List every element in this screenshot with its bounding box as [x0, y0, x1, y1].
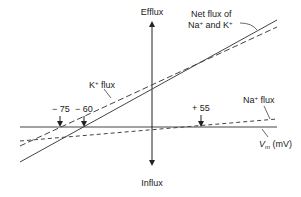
efflux-label: Efflux: [141, 7, 164, 17]
k-flux-leader: [104, 89, 111, 98]
na-flux-line: [20, 119, 277, 141]
k-flux-line: [20, 20, 277, 162]
na-flux-label: Na+ flux: [243, 95, 275, 105]
flux-diagram: Efflux Influx Net flux of Na+ and K+ K+ …: [0, 0, 301, 197]
net-flux-line: [20, 27, 277, 146]
marker-label-minus60: − 60: [75, 104, 93, 114]
marker-label-minus75: − 75: [52, 104, 70, 114]
influx-label: Influx: [141, 178, 163, 188]
k-flux-label: K+ flux: [89, 80, 116, 90]
vm-leader: [262, 129, 268, 137]
na-flux-leader: [264, 106, 270, 119]
marker-label-plus55: + 55: [192, 103, 210, 113]
net-flux-label-line1: Net flux of: [191, 9, 232, 19]
net-flux-leader: [240, 23, 257, 30]
vm-label: Vm (mV): [259, 139, 292, 150]
net-flux-label-line2: Na+ and K+: [188, 20, 233, 30]
